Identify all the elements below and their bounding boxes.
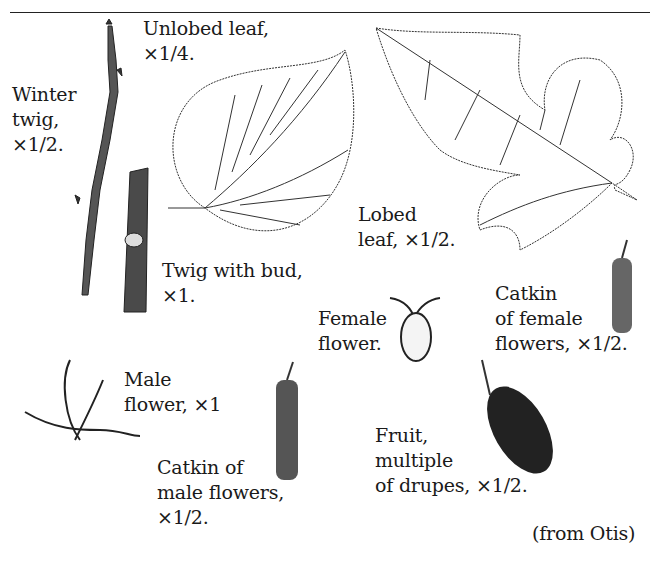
label-catkin-male: Catkin of male flowers, ×1/2. <box>157 455 284 530</box>
label-winter-twig: Winter twig, ×1/2. <box>12 82 76 157</box>
label-male-flower: Male flower, ×1 <box>124 367 221 417</box>
unlobed-leaf-illustration <box>168 50 354 231</box>
label-catkin-female: Catkin of female flowers, ×1/2. <box>495 281 628 356</box>
winter-twig-illustration <box>75 19 122 295</box>
label-twig-with-bud: Twig with bud, ×1. <box>162 258 303 308</box>
label-female-flower: Female flower. <box>318 306 387 356</box>
credit-text: (from Otis) <box>532 521 635 546</box>
label-fruit: Fruit, multiple of drupes, ×1/2. <box>375 423 528 498</box>
twig-with-bud-illustration <box>124 168 148 312</box>
label-unlobed-leaf: Unlobed leaf, ×1/4. <box>143 16 269 66</box>
female-flower-illustration <box>390 298 440 361</box>
male-flower-illustration <box>25 360 140 440</box>
label-lobed-leaf: Lobed leaf, ×1/2. <box>358 202 455 252</box>
